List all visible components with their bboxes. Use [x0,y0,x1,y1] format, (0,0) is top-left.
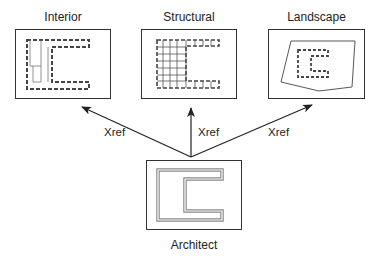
landscape-drawing [269,30,365,99]
xref-label-structural: Xref [198,126,219,138]
landscape-label: Landscape [268,10,365,24]
xref-diagram [0,0,378,262]
architect-label: Architect [146,238,242,252]
interior-label: Interior [15,10,111,24]
interior-drawing [16,30,111,99]
structural-label: Structural [141,10,237,24]
arrow-to-interior [82,107,191,157]
structural-drawing [142,30,237,99]
xref-label-landscape: Xref [268,126,289,138]
architect-drawing [147,161,242,230]
xref-label-interior: Xref [104,126,125,138]
